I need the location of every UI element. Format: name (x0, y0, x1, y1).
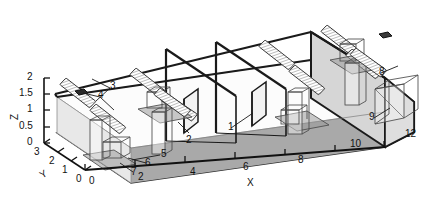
x-tick-8: 8 (298, 155, 304, 165)
z-tick-0: 0 (27, 137, 33, 147)
callout-5: 5 (161, 149, 167, 159)
z-tick-0-5: 0.5 (19, 121, 33, 131)
x-tick-2: 2 (138, 172, 144, 182)
figure-root: 2 1.5 1 0.5 0 Z 3 2 1 0 Y 0 2 4 6 8 10 1… (0, 0, 429, 208)
y-tick-2: 2 (49, 156, 55, 166)
callout-2: 2 (186, 135, 192, 145)
callout-3: 3 (110, 81, 116, 91)
z-tick-1-5: 1.5 (19, 88, 33, 98)
callout-9: 9 (369, 112, 375, 122)
y-tick-0: 0 (76, 174, 82, 184)
x-tick-4: 4 (190, 167, 196, 177)
y-tick-1: 1 (62, 165, 68, 175)
callout-4: 4 (98, 90, 104, 100)
z-tick-2: 2 (27, 72, 33, 82)
x-tick-0: 0 (89, 176, 95, 186)
callout-6: 6 (145, 158, 151, 168)
x-tick-10: 10 (350, 139, 361, 149)
z-axis-label: Z (10, 114, 20, 120)
z-tick-1: 1 (27, 104, 33, 114)
x-axis-label: X (247, 178, 254, 188)
x-tick-12: 12 (405, 129, 416, 139)
y-tick-3: 3 (34, 147, 40, 157)
x-tick-6: 6 (243, 162, 249, 172)
ceiling-vent-panel (379, 32, 392, 38)
callout-7: 7 (131, 167, 137, 177)
callout-1: 1 (228, 122, 234, 132)
callout-8: 8 (379, 67, 385, 77)
isometric-scene (0, 0, 429, 208)
